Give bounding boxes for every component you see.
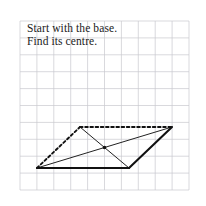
worksheet-figure-panel: Start with the base. Find its centre. xyxy=(0,0,206,206)
caption-line-2: Find its centre. xyxy=(27,35,177,48)
instruction-caption: Start with the base. Find its centre. xyxy=(27,22,177,48)
centre-point-dot xyxy=(103,146,107,150)
caption-line-1: Start with the base. xyxy=(27,22,177,35)
